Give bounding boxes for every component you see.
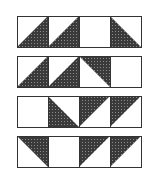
tile-strips-diagram	[0, 0, 152, 179]
tile-strip-1	[17, 16, 142, 48]
tile-dark-bottom-right	[17, 56, 49, 88]
tile-blank	[48, 136, 80, 168]
tile-dark-bottom-left	[48, 96, 80, 128]
tile-dark-top-right	[17, 136, 49, 168]
tile-blank	[110, 56, 142, 88]
tile-dark-top-right	[79, 56, 111, 88]
tile-dark-top-left	[79, 136, 111, 168]
tile-strip-2	[17, 56, 142, 88]
tile-dark-bottom-right	[48, 56, 80, 88]
tile-dark-top-left	[110, 136, 142, 168]
tile-strip-4	[17, 136, 142, 168]
tile-blank	[79, 16, 111, 48]
tile-dark-bottom-left	[110, 16, 142, 48]
tile-dark-top-left	[110, 96, 142, 128]
tile-dark-bottom-right	[48, 16, 80, 48]
tile-blank	[17, 96, 49, 128]
tile-dark-top-left	[79, 96, 111, 128]
tile-strip-3	[17, 96, 142, 128]
tile-dark-bottom-right	[17, 16, 49, 48]
